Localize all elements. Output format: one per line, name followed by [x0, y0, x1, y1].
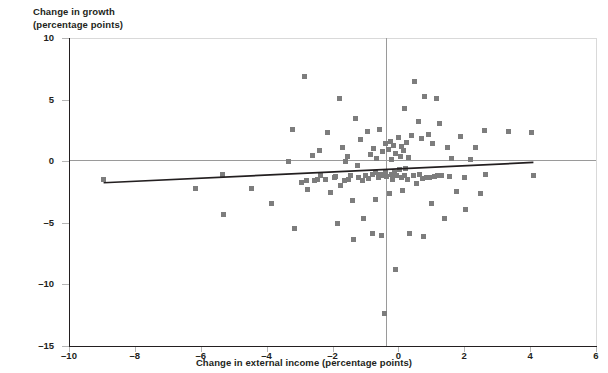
data-point	[371, 146, 376, 151]
data-point	[292, 226, 297, 231]
data-point	[439, 173, 444, 178]
y-tick-mark	[62, 38, 69, 39]
data-point	[193, 186, 198, 191]
y-tick-mark	[62, 284, 69, 285]
data-point	[305, 187, 310, 192]
data-point	[386, 147, 391, 152]
data-point	[101, 177, 106, 182]
data-point	[348, 173, 353, 178]
data-point	[370, 231, 375, 236]
data-point	[447, 174, 452, 179]
data-point	[286, 159, 291, 164]
data-point	[249, 186, 254, 191]
data-point	[389, 157, 394, 162]
data-point	[483, 172, 488, 177]
data-point	[310, 153, 315, 158]
trendline	[0, 0, 608, 373]
data-point	[317, 148, 322, 153]
data-point	[338, 183, 343, 188]
data-point	[397, 167, 402, 172]
data-point	[416, 119, 421, 124]
data-point	[335, 221, 340, 226]
data-point	[419, 136, 424, 141]
data-point	[411, 173, 416, 178]
data-point	[407, 231, 412, 236]
y-tick-label: 10	[18, 32, 54, 43]
data-point	[220, 172, 225, 177]
data-point	[468, 157, 473, 162]
x-axis-title: Change in external income (percentage po…	[0, 357, 608, 368]
y-axis-title: Change in growth (percentage points)	[33, 6, 123, 31]
data-point	[531, 173, 536, 178]
y-tick-label: –5	[18, 217, 54, 228]
data-point	[374, 156, 379, 161]
data-point	[323, 177, 328, 182]
data-point	[360, 178, 365, 183]
y-tick-label: 5	[18, 94, 54, 105]
data-point	[412, 79, 417, 84]
zero-line-horizontal	[69, 160, 596, 161]
data-point	[337, 96, 342, 101]
data-point	[449, 156, 454, 161]
data-point	[350, 198, 355, 203]
data-point	[421, 234, 426, 239]
data-point	[368, 152, 373, 157]
data-point	[358, 137, 363, 142]
data-point	[400, 188, 405, 193]
data-point	[398, 154, 403, 159]
data-point	[304, 178, 309, 183]
data-point	[429, 201, 434, 206]
data-point	[396, 135, 401, 140]
data-point	[422, 94, 427, 99]
data-point	[458, 134, 463, 139]
data-point	[373, 197, 378, 202]
y-tick-mark	[62, 161, 69, 162]
y-tick-label: 0	[18, 155, 54, 166]
data-point	[365, 129, 370, 134]
data-point	[482, 128, 487, 133]
data-point	[340, 145, 345, 150]
data-point	[409, 133, 414, 138]
data-point	[404, 140, 409, 145]
data-point	[351, 237, 356, 242]
scatter-chart: Change in growth (percentage points) 105…	[0, 0, 608, 373]
x-axis-line	[69, 346, 597, 347]
y-tick-label: –10	[18, 278, 54, 289]
data-point	[353, 116, 358, 121]
data-point	[434, 96, 439, 101]
data-point	[391, 143, 396, 148]
data-point	[437, 121, 442, 126]
data-point	[380, 149, 385, 154]
y-tick-mark	[62, 346, 69, 347]
data-point	[445, 145, 450, 150]
data-point	[328, 190, 333, 195]
data-point	[343, 159, 348, 164]
y-axis-line	[69, 38, 70, 347]
data-point	[401, 148, 406, 153]
data-point	[462, 175, 467, 180]
data-point	[290, 127, 295, 132]
data-point	[382, 311, 387, 316]
data-point	[430, 141, 435, 146]
data-point	[393, 267, 398, 272]
data-point	[302, 74, 307, 79]
data-point	[463, 207, 468, 212]
data-point	[406, 155, 411, 160]
data-point	[345, 154, 350, 159]
data-point	[383, 169, 388, 174]
data-point	[269, 201, 274, 206]
plot-frame-top	[69, 38, 596, 39]
data-point	[478, 191, 483, 196]
data-point	[403, 166, 408, 171]
data-point	[529, 130, 534, 135]
data-point	[454, 189, 459, 194]
data-point	[361, 216, 366, 221]
data-point	[333, 174, 338, 179]
data-point	[426, 132, 431, 137]
data-point	[325, 130, 330, 135]
data-point	[387, 191, 392, 196]
data-point	[414, 181, 419, 186]
data-point	[379, 233, 384, 238]
data-point	[506, 129, 511, 134]
data-point	[405, 177, 410, 182]
